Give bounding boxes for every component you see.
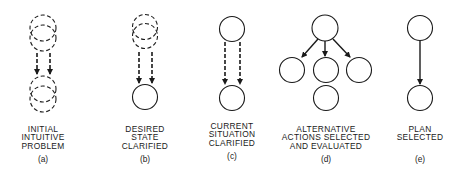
panel-c [220, 17, 245, 111]
node-circle [314, 58, 339, 83]
panel-c-tag: (c) [227, 151, 237, 161]
problem-solving-diagram: INITIAL INTUITIVE PROBLEM (a) DESIRED ST… [0, 0, 463, 173]
arrow-icon [333, 39, 350, 57]
dashed-node-circle [30, 76, 56, 102]
arrow-icon [302, 39, 318, 57]
panel-e-label: PLAN SELECTED [397, 125, 444, 142]
node-circle [220, 17, 245, 42]
panel-e-tag: (e) [415, 154, 425, 164]
panel-d-label: ALTERNATIVE ACTIONS SELECTED AND EVALUAT… [282, 125, 371, 150]
panel-a-label: INITIAL INTUITIVE PROBLEM [21, 125, 64, 150]
panel-d-tag: (d) [321, 154, 331, 164]
label-line: PROBLEM [21, 142, 64, 150]
node-circle [312, 15, 338, 41]
panel-a-tag: (a) [38, 154, 48, 164]
panel-d [280, 15, 372, 111]
label-line: AND EVALUATED [282, 142, 371, 150]
panel-c-label: CURRENT SITUATION CLARIFIED [209, 122, 256, 147]
node-circle [408, 16, 433, 41]
node-circle [347, 58, 372, 83]
panel-b-label: DESIRED STATE CLARIFIED [122, 125, 168, 150]
node-circle [133, 85, 158, 110]
node-circle [408, 86, 433, 111]
label-line: SELECTED [397, 133, 444, 141]
node-circle [220, 86, 245, 111]
label-line: CLARIFIED [122, 142, 168, 150]
panel-a [30, 15, 56, 112]
node-circle [314, 86, 339, 111]
dashed-node-circle [30, 15, 56, 41]
label-line: CLARIFIED [209, 139, 256, 147]
panel-b [133, 15, 158, 110]
node-circle [280, 58, 305, 83]
panel-b-tag: (b) [140, 154, 150, 164]
panel-e [408, 16, 433, 111]
